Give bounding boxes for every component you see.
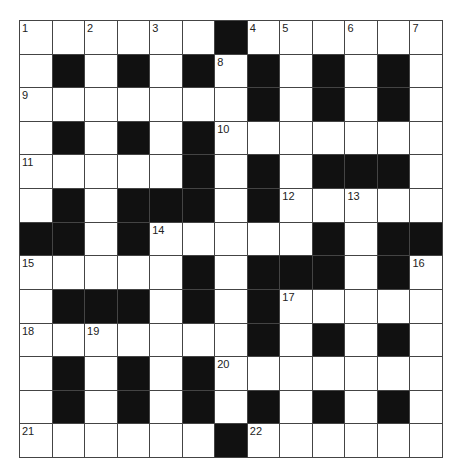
crossword-cell[interactable] [280, 391, 312, 424]
crossword-cell[interactable] [280, 155, 312, 188]
crossword-cell[interactable] [150, 256, 182, 289]
crossword-cell[interactable] [85, 357, 117, 390]
crossword-cell[interactable] [118, 21, 150, 54]
crossword-cell[interactable]: 22 [248, 424, 280, 457]
crossword-cell[interactable] [53, 424, 85, 457]
crossword-cell[interactable]: 19 [85, 324, 117, 357]
crossword-cell[interactable]: 11 [20, 155, 52, 188]
crossword-cell[interactable] [53, 155, 85, 188]
crossword-cell[interactable] [20, 290, 52, 323]
crossword-cell[interactable]: 10 [215, 122, 247, 155]
crossword-cell[interactable] [280, 223, 312, 256]
crossword-cell[interactable]: 16 [410, 256, 442, 289]
crossword-cell[interactable] [378, 189, 410, 222]
crossword-cell[interactable] [345, 290, 377, 323]
crossword-cell[interactable] [410, 424, 442, 457]
crossword-cell[interactable] [20, 189, 52, 222]
crossword-cell[interactable] [215, 189, 247, 222]
crossword-cell[interactable]: 12 [280, 189, 312, 222]
crossword-cell[interactable]: 18 [20, 324, 52, 357]
crossword-cell[interactable] [215, 391, 247, 424]
crossword-cell[interactable]: 4 [248, 21, 280, 54]
crossword-cell[interactable] [183, 324, 215, 357]
crossword-cell[interactable] [410, 155, 442, 188]
crossword-cell[interactable] [150, 324, 182, 357]
crossword-cell[interactable] [313, 189, 345, 222]
crossword-cell[interactable] [248, 357, 280, 390]
crossword-cell[interactable] [280, 357, 312, 390]
crossword-cell[interactable] [378, 424, 410, 457]
crossword-cell[interactable] [118, 256, 150, 289]
crossword-cell[interactable]: 5 [280, 21, 312, 54]
crossword-cell[interactable] [313, 290, 345, 323]
crossword-cell[interactable]: 20 [215, 357, 247, 390]
crossword-cell[interactable] [150, 55, 182, 88]
crossword-cell[interactable] [280, 88, 312, 121]
crossword-cell[interactable] [410, 324, 442, 357]
crossword-cell[interactable] [183, 223, 215, 256]
crossword-cell[interactable] [410, 122, 442, 155]
crossword-cell[interactable]: 8 [215, 55, 247, 88]
crossword-cell[interactable] [215, 88, 247, 121]
crossword-cell[interactable] [248, 223, 280, 256]
crossword-cell[interactable] [410, 357, 442, 390]
crossword-cell[interactable]: 15 [20, 256, 52, 289]
crossword-cell[interactable] [150, 122, 182, 155]
crossword-cell[interactable] [53, 324, 85, 357]
crossword-cell[interactable] [280, 122, 312, 155]
crossword-cell[interactable]: 7 [410, 21, 442, 54]
crossword-cell[interactable] [183, 88, 215, 121]
crossword-cell[interactable] [85, 122, 117, 155]
crossword-cell[interactable] [378, 357, 410, 390]
crossword-cell[interactable]: 1 [20, 21, 52, 54]
crossword-cell[interactable] [345, 55, 377, 88]
crossword-cell[interactable] [313, 357, 345, 390]
crossword-cell[interactable] [118, 324, 150, 357]
crossword-cell[interactable] [150, 357, 182, 390]
crossword-cell[interactable] [215, 324, 247, 357]
crossword-cell[interactable] [215, 256, 247, 289]
crossword-cell[interactable] [85, 256, 117, 289]
crossword-cell[interactable] [215, 223, 247, 256]
crossword-cell[interactable]: 17 [280, 290, 312, 323]
crossword-cell[interactable] [280, 324, 312, 357]
crossword-cell[interactable] [150, 155, 182, 188]
crossword-cell[interactable] [345, 122, 377, 155]
crossword-cell[interactable] [345, 256, 377, 289]
crossword-cell[interactable] [85, 223, 117, 256]
crossword-cell[interactable] [85, 88, 117, 121]
crossword-cell[interactable] [410, 391, 442, 424]
crossword-cell[interactable] [20, 55, 52, 88]
crossword-cell[interactable] [53, 88, 85, 121]
crossword-cell[interactable] [183, 424, 215, 457]
crossword-cell[interactable] [248, 122, 280, 155]
crossword-cell[interactable] [53, 256, 85, 289]
crossword-cell[interactable] [313, 122, 345, 155]
crossword-cell[interactable] [183, 21, 215, 54]
crossword-cell[interactable] [345, 357, 377, 390]
crossword-cell[interactable] [378, 122, 410, 155]
crossword-cell[interactable]: 13 [345, 189, 377, 222]
crossword-cell[interactable] [345, 223, 377, 256]
crossword-cell[interactable] [378, 21, 410, 54]
crossword-cell[interactable] [85, 424, 117, 457]
crossword-cell[interactable] [215, 290, 247, 323]
crossword-cell[interactable] [410, 88, 442, 121]
crossword-cell[interactable] [345, 424, 377, 457]
crossword-cell[interactable] [378, 290, 410, 323]
crossword-cell[interactable]: 14 [150, 223, 182, 256]
crossword-cell[interactable] [20, 357, 52, 390]
crossword-cell[interactable] [150, 290, 182, 323]
crossword-cell[interactable] [280, 55, 312, 88]
crossword-cell[interactable] [410, 290, 442, 323]
crossword-cell[interactable] [118, 155, 150, 188]
crossword-cell[interactable]: 6 [345, 21, 377, 54]
crossword-cell[interactable] [85, 155, 117, 188]
crossword-cell[interactable] [313, 424, 345, 457]
crossword-cell[interactable] [20, 122, 52, 155]
crossword-cell[interactable] [313, 21, 345, 54]
crossword-cell[interactable]: 21 [20, 424, 52, 457]
crossword-cell[interactable] [150, 391, 182, 424]
crossword-cell[interactable] [150, 424, 182, 457]
crossword-cell[interactable] [53, 21, 85, 54]
